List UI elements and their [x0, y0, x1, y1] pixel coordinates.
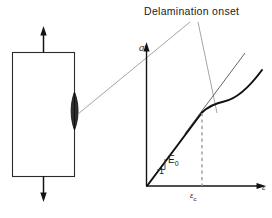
critical-strain-subscript: c: [194, 196, 197, 202]
leader-line-to-specimen: [78, 22, 190, 114]
y-axis-label: σ: [139, 44, 144, 53]
leader-line-to-kink: [198, 22, 217, 113]
specimen-group: [13, 26, 79, 202]
load-arrow-down-icon: [40, 176, 46, 202]
critical-strain-tick-label: εc: [190, 192, 197, 202]
annotation-title: Delamination onset: [144, 6, 239, 17]
specimen-outline: [13, 53, 75, 177]
modulus-base: E: [168, 154, 175, 165]
load-arrow-up-icon: [40, 26, 46, 52]
stress-strain-curve: [147, 70, 262, 186]
slope-run-label: 1: [159, 167, 164, 176]
modulus-label: E0: [168, 155, 179, 167]
figure-canvas: [0, 0, 272, 218]
initial-tangent-extension: [185, 53, 245, 134]
delamination-onset-figure: Delamination onset σ ε εc E0 1: [0, 0, 272, 218]
x-axis-label: ε: [262, 184, 266, 192]
annotation-leader-lines: [78, 22, 217, 114]
modulus-subscript: 0: [175, 160, 179, 167]
